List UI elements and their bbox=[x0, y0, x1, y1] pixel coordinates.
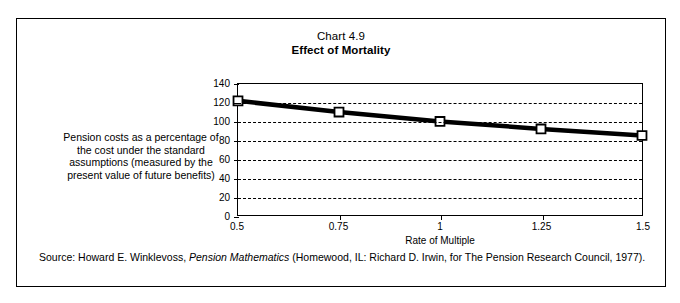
chart-title-block: Chart 4.9 Effect of Mortality bbox=[17, 29, 665, 57]
source-suffix: (Homewood, IL: Richard D. Irwin, for The… bbox=[289, 251, 645, 263]
source-note: Source: Howard E. Winklevoss, Pension Ma… bbox=[39, 251, 645, 264]
y-tick-label: 140 bbox=[200, 79, 230, 89]
x-tick-mark bbox=[340, 215, 341, 220]
data-point-marker bbox=[638, 131, 647, 140]
y-tick-mark bbox=[234, 179, 239, 180]
figure-frame: Chart 4.9 Effect of Mortality Pension co… bbox=[16, 18, 666, 287]
y-tick-label: 40 bbox=[200, 174, 230, 184]
x-tick-label: 0.75 bbox=[314, 222, 364, 232]
x-tick-mark bbox=[441, 215, 442, 220]
gridline bbox=[238, 160, 642, 161]
y-tick-label: 100 bbox=[200, 117, 230, 127]
y-tick-label: 60 bbox=[200, 155, 230, 165]
x-tick-mark bbox=[543, 215, 544, 220]
gridline bbox=[238, 141, 642, 142]
gridline bbox=[238, 198, 642, 199]
x-tick-label: 0.5 bbox=[212, 222, 262, 232]
source-prefix: Source: Howard E. Winklevoss, bbox=[39, 251, 189, 263]
y-tick-label: 0 bbox=[200, 212, 230, 222]
y-tick-label: 20 bbox=[200, 193, 230, 203]
y-axis-caption: Pension costs as a percentage of the cos… bbox=[61, 131, 221, 181]
x-tick-label: 1.5 bbox=[618, 222, 668, 232]
data-point-marker bbox=[537, 124, 546, 133]
y-tick-mark bbox=[234, 141, 239, 142]
data-point-marker bbox=[335, 108, 344, 117]
y-tick-mark bbox=[234, 122, 239, 123]
chart-number: Chart 4.9 bbox=[17, 29, 665, 43]
y-tick-mark bbox=[234, 198, 239, 199]
source-title: Pension Mathematics bbox=[189, 251, 289, 263]
gridline bbox=[238, 103, 642, 104]
x-tick-label: 1.25 bbox=[517, 222, 567, 232]
page-title: Effect of Mortality bbox=[17, 43, 665, 57]
gridline bbox=[238, 179, 642, 180]
plot-wrapper: 020406080100120140 Rate of Multiple 0.50… bbox=[221, 65, 651, 265]
y-tick-mark bbox=[234, 103, 239, 104]
y-tick-mark bbox=[234, 160, 239, 161]
x-axis-title: Rate of Multiple bbox=[237, 235, 643, 246]
y-tick-label: 120 bbox=[200, 98, 230, 108]
y-tick-mark bbox=[234, 84, 239, 85]
y-tick-mark bbox=[234, 217, 239, 218]
x-tick-label: 1 bbox=[415, 222, 465, 232]
y-tick-label: 80 bbox=[200, 136, 230, 146]
plot-area: 020406080100120140 bbox=[237, 83, 643, 216]
gridline bbox=[238, 122, 642, 123]
